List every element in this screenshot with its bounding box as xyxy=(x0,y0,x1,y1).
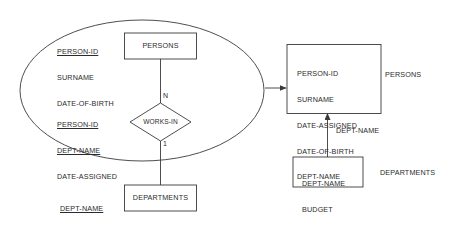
column-surname: SURNAME xyxy=(297,96,357,105)
column-person-id: PERSON-ID xyxy=(297,70,357,79)
column-dept-name: DEPT-NAME xyxy=(302,180,345,189)
attribute-person-id: PERSON-ID xyxy=(57,121,117,130)
attribute-dept-name: DEPT-NAME xyxy=(57,147,117,156)
works-in-relationship-attributes: PERSON-ID DEPT-NAME DATE-ASSIGNED xyxy=(57,104,117,199)
persons-entity-label: PERSONS xyxy=(125,42,197,51)
cardinality-one-label: 1 xyxy=(163,140,167,147)
departments-entity-label: DEPARTMENTS xyxy=(125,194,197,203)
er-diagram-canvas: PERSON-ID SURNAME DATE-OF-BIRTH PERSONS … xyxy=(0,0,457,225)
column-budget: BUDGET xyxy=(302,206,345,215)
cardinality-n-label: N xyxy=(163,92,168,99)
persons-table-caption: PERSONS xyxy=(385,70,421,79)
attribute-dept-name: DEPT-NAME xyxy=(60,205,103,214)
departments-entity-attributes: DEPT-NAME BUDGET xyxy=(60,188,103,225)
attribute-person-id: PERSON-ID xyxy=(57,48,114,57)
attribute-date-assigned: DATE-ASSIGNED xyxy=(57,173,117,182)
departments-table-caption: DEPARTMENTS xyxy=(380,168,435,177)
works-in-relationship-label: WORKS-IN xyxy=(130,118,191,125)
foreign-key-label: DEPT-NAME xyxy=(336,126,379,135)
diagram-text-layer: PERSON-ID SURNAME DATE-OF-BIRTH PERSONS … xyxy=(0,0,457,225)
column-date-of-birth: DATE-OF-BIRTH xyxy=(297,148,357,157)
attribute-surname: SURNAME xyxy=(57,74,114,83)
departments-table-columns: DEPT-NAME BUDGET xyxy=(302,163,345,225)
